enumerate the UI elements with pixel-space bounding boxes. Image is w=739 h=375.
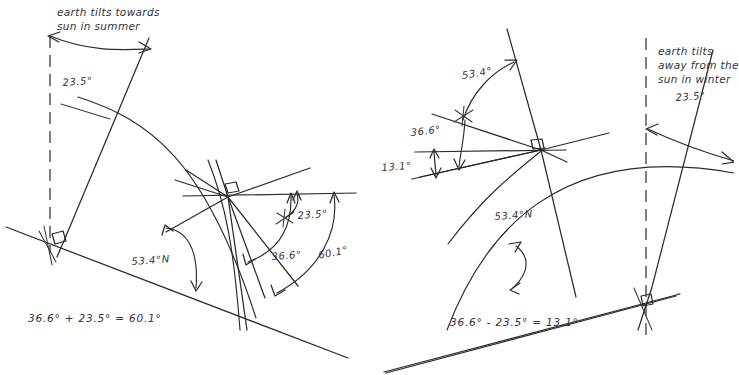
- left-note-line-2: sun in summer: [57, 19, 140, 33]
- star-mark-right: [454, 106, 473, 126]
- earth-surface-arc-right: [447, 167, 734, 330]
- right-angle-winter-altitude-label: 13.1°: [381, 159, 412, 175]
- left-angle-base-altitude-label: 36.6°: [271, 248, 302, 264]
- right-angle-marker-left-observer: [225, 182, 239, 193]
- left-panel-summer-strokes: [6, 32, 356, 358]
- angle-arc-36-6-right: [459, 120, 465, 167]
- angle-arc-13-1-right: [434, 152, 436, 175]
- left-angle-tilt-observer-label: 23.5°: [297, 207, 328, 223]
- ground-plane-line-right: [384, 294, 680, 372]
- arrowhead-60-1-down-left: [271, 285, 285, 296]
- zenith-line-left: [216, 160, 247, 330]
- ray-long-down-left: [228, 197, 265, 298]
- axis-tick-left-bottom: [44, 226, 52, 265]
- right-note-line-2: away from the: [658, 58, 739, 72]
- ray-down-right-right: [541, 150, 567, 162]
- ray-to-lower-left: [186, 170, 228, 197]
- right-angle-tilt-label: 23.5°: [675, 89, 706, 105]
- left-note-line-1: earth tilts towards: [57, 5, 160, 19]
- ray-up-right-right: [541, 133, 609, 150]
- ground-plane-line-left: [6, 227, 348, 358]
- right-angle-latitude-label: 53.4°N: [494, 207, 533, 223]
- ground-plane-line-right-2: [386, 296, 676, 373]
- left-angle-tilt-label: 23.5°: [62, 74, 93, 90]
- arrowhead-53-4-up-left: [162, 225, 173, 235]
- left-equation-label: 36.6° + 23.5° = 60.1°: [28, 311, 162, 325]
- ray-sun-winter-right: [432, 114, 541, 150]
- zenith-line-right: [507, 29, 576, 297]
- angle-arc-53-4-left: [166, 228, 196, 288]
- arrowhead-53-4-bottom-up-right: [509, 242, 521, 252]
- right-angle-marker-left-bottom: [52, 231, 66, 244]
- right-angle-marker-right-observer: [531, 139, 544, 149]
- ray-secondary-left: [166, 197, 228, 232]
- arrowhead-53-4-bottom-down-right: [510, 283, 520, 294]
- right-note-line-1: earth tilts: [658, 44, 713, 58]
- note-arrow-curve-left: [50, 36, 150, 50]
- secondary-surface-arc-right: [448, 148, 545, 244]
- earth-axis-line-left: [57, 38, 149, 257]
- right-note-line-3: sun in winter: [658, 72, 731, 86]
- local-horizon-line-left: [183, 193, 356, 196]
- axis-tick-left-bottom-2: [39, 231, 56, 262]
- left-angle-latitude-label: 53.4°N: [131, 252, 170, 268]
- right-equation-label: 36.6° - 23.5° = 13.1°: [450, 315, 579, 329]
